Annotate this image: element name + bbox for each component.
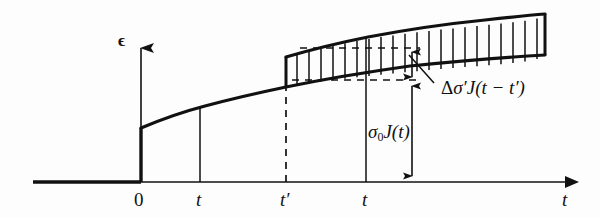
sigma-glyph: σ: [368, 121, 377, 142]
delta-sigma-argument: (t − t′): [475, 77, 525, 98]
sigma-zero-argument: (t): [392, 121, 410, 142]
tick-label-zero: 0: [134, 190, 144, 209]
creep-strain-figure: ϵ t 0 t t′ t Δσ′J(t − t′) σ0J(t): [0, 0, 600, 217]
x-axis-label: t: [562, 190, 567, 209]
y-axis-label: ϵ: [118, 32, 125, 49]
sigma-compliance-J-glyph: J: [383, 121, 391, 142]
tick-label-t2: t: [362, 190, 367, 209]
tick-label-tprime: t′: [280, 190, 289, 209]
tick-label-t1: t: [196, 190, 201, 209]
figure-canvas: [0, 0, 600, 217]
delta-glyph: Δ: [441, 77, 453, 98]
sigma-zero-annotation: σ0J(t): [368, 122, 410, 143]
compliance-J-glyph: J: [467, 77, 475, 98]
sigma-prime-glyph: σ′: [453, 77, 467, 98]
total-creep-curve: [286, 14, 545, 57]
delta-sigma-annotation: Δσ′J(t − t′): [441, 78, 525, 97]
